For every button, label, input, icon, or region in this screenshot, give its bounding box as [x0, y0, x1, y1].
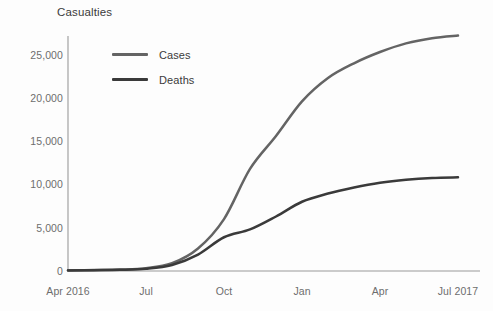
x-tick-label: Apr 2016 [46, 285, 89, 297]
casualties-line-chart: Casualties 05,00010,00015,00020,00025,00… [0, 0, 493, 311]
legend-swatch-deaths [112, 78, 148, 81]
legend-label: Deaths [159, 74, 194, 86]
x-tick-label: Jul [139, 285, 153, 297]
x-tick-label: Apr [372, 285, 389, 297]
plot-area [0, 0, 493, 311]
chart-legend: CasesDeaths [112, 48, 194, 86]
x-tick-label: Jan [293, 285, 310, 297]
legend-entry-deaths[interactable]: Deaths [112, 73, 194, 86]
x-tick-label: Oct [216, 285, 233, 297]
legend-entry-cases[interactable]: Cases [112, 48, 194, 61]
series-line-deaths [68, 177, 458, 270]
x-tick-label: Jul 2017 [438, 285, 479, 297]
legend-swatch-cases [112, 53, 148, 56]
legend-label: Cases [159, 49, 191, 61]
